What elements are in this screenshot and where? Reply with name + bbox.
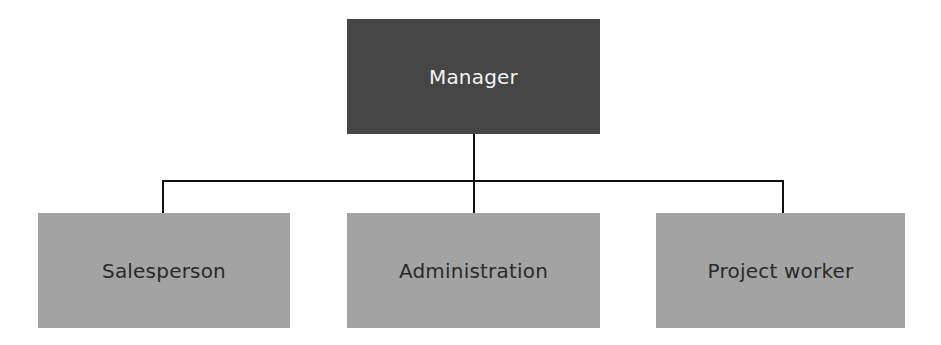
node-project-worker: Project worker: [656, 213, 905, 328]
node-salesperson: Salesperson: [38, 213, 290, 328]
node-administration: Administration: [347, 213, 600, 328]
connector-project-worker: [782, 180, 784, 213]
node-label: Manager: [429, 65, 518, 89]
connector-trunk: [473, 134, 475, 182]
node-manager: Manager: [347, 19, 600, 134]
node-label: Project worker: [708, 259, 854, 283]
node-label: Salesperson: [102, 259, 226, 283]
connector-salesperson: [162, 180, 164, 213]
connector-administration: [473, 180, 475, 213]
node-label: Administration: [399, 259, 548, 283]
